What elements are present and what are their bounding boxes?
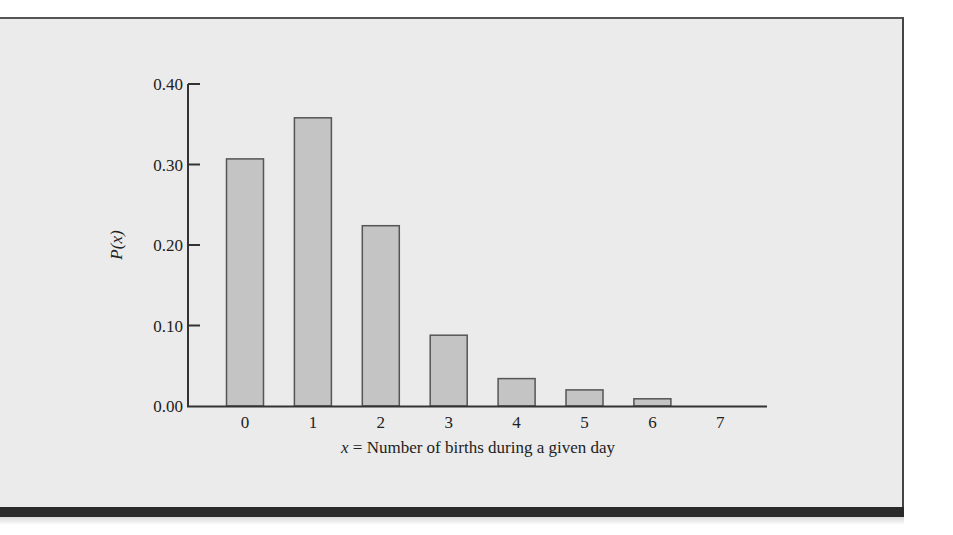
x-axis-title-text: = Number of births during a given day (349, 438, 616, 457)
x-tick-label: 7 (716, 413, 725, 432)
bar-5 (566, 390, 603, 406)
x-axis-title: x = Number of births during a given day (340, 438, 615, 457)
bar-1 (294, 118, 331, 406)
bar-4 (498, 379, 535, 406)
bars-group (227, 118, 671, 406)
x-tick-labels-group: 01234567 (241, 413, 725, 432)
bar-0 (227, 159, 264, 406)
y-tick-label: 0.10 (153, 317, 183, 336)
y-tick-label: 0.40 (153, 75, 183, 94)
x-tick-label: 4 (512, 413, 521, 432)
y-tick-label: 0.00 (153, 397, 183, 416)
y-tick-label: 0.30 (153, 156, 183, 175)
x-tick-label: 1 (309, 413, 318, 432)
bar-chart: 0.000.100.200.300.40 01234567 P(x) x = N… (0, 0, 953, 535)
x-tick-label: 0 (241, 413, 250, 432)
y-axis-title: P(x) (107, 230, 126, 261)
x-tick-label: 6 (648, 413, 657, 432)
bar-6 (634, 399, 671, 406)
y-tick-label: 0.20 (153, 236, 183, 255)
x-tick-label: 2 (377, 413, 386, 432)
y-ticks-group: 0.000.100.200.300.40 (153, 75, 200, 416)
bar-3 (430, 335, 467, 406)
x-tick-label: 3 (444, 413, 453, 432)
x-tick-label: 5 (580, 413, 589, 432)
bar-2 (362, 226, 399, 406)
